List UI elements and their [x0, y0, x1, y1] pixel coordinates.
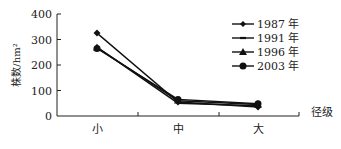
x-category-label: 小 [92, 123, 103, 136]
series-lines [97, 33, 258, 107]
legend-label: 2003 年 [257, 59, 300, 73]
circle-marker-icon [240, 63, 247, 70]
y-tick-label: 0 [45, 110, 52, 123]
series-1987 [97, 33, 258, 107]
y-tick-label: 400 [31, 8, 52, 21]
y-tick-label: 300 [31, 34, 52, 47]
legend-item: 1991 年 [232, 31, 300, 45]
series-2003 [97, 49, 258, 104]
legend-label: 1991 年 [257, 31, 300, 45]
x-category-label: 大 [253, 122, 264, 136]
legend: 1987 年 1991 年 1996 年 2003 年 [232, 17, 300, 73]
x-axis-label: 径级 [311, 106, 333, 119]
y-tick-label: 200 [31, 59, 52, 72]
line-chart: 400 300 200 100 0 株数/hm² 小 中 大 径级 [0, 0, 341, 149]
y-tick-label: 100 [31, 85, 52, 98]
x-axis: 小 中 大 径级 [57, 106, 333, 136]
legend-label: 1996 年 [257, 45, 300, 59]
series-markers [93, 30, 262, 111]
circle-marker-icon [175, 96, 182, 103]
diamond-marker-icon [240, 21, 246, 27]
circle-marker-icon [255, 100, 262, 107]
y-axis: 400 300 200 100 0 株数/hm² [10, 8, 61, 123]
legend-item: 1996 年 [232, 45, 300, 59]
y-axis-label: 株数/hm² [10, 43, 22, 86]
legend-label: 1987 年 [257, 17, 300, 31]
legend-item: 1987 年 [232, 17, 300, 31]
circle-marker-icon [94, 45, 101, 52]
x-category-label: 中 [173, 123, 184, 136]
legend-item: 2003 年 [232, 59, 300, 73]
